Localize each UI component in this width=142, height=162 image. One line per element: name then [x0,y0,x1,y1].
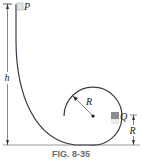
side-arrow-bottom [132,140,135,145]
block-q [111,112,119,119]
block-q-label: Q [120,111,128,122]
block-p-label: P [23,1,30,12]
side-dimension-label: R [129,125,136,136]
height-arrow-bottom [6,140,9,145]
side-arrow-top [132,115,135,120]
figure-caption: FIG. 8-35 [52,149,90,159]
figure-diagram: h P R Q R FIG. 8-35 [0,0,142,162]
block-q-shadow [111,119,119,124]
track [16,4,122,145]
loop-radius-label: R [85,96,92,107]
height-arrow-top [6,4,9,9]
height-label: h [5,72,10,83]
block-p [17,3,23,10]
